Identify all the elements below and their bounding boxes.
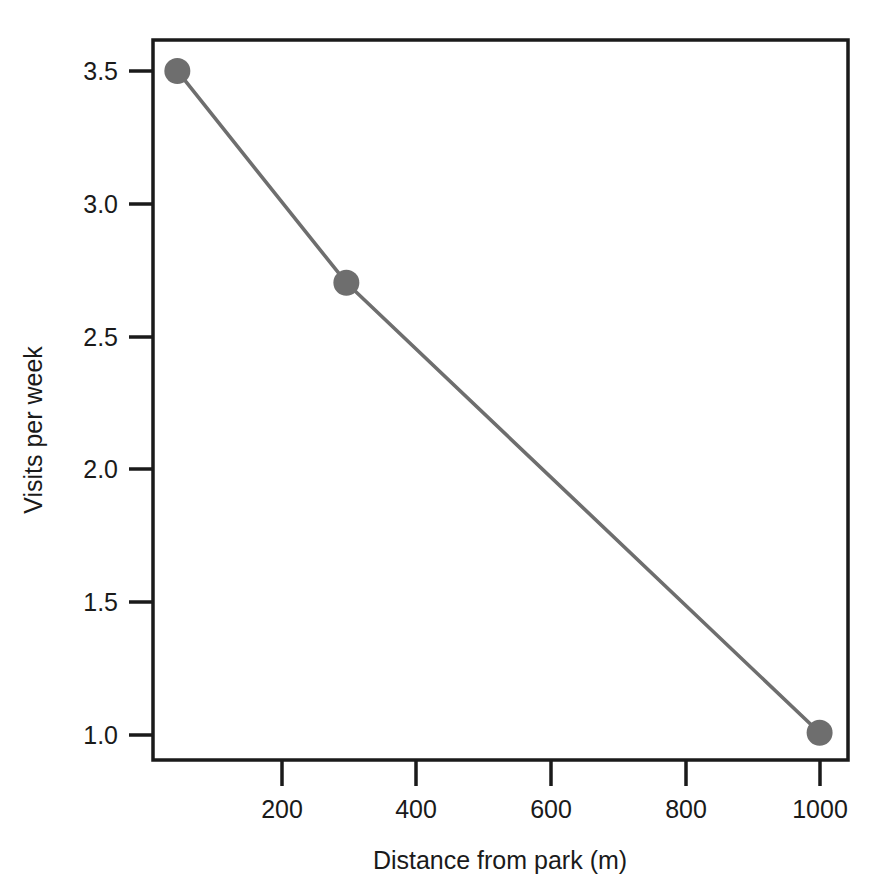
x-tick-label: 200 <box>261 795 303 823</box>
x-tick-label: 600 <box>530 795 572 823</box>
chart-figure: 1.0 1.5 2.0 2.5 3.0 3.5 200 400 600 800 … <box>0 0 892 895</box>
x-tick-label: 800 <box>665 795 707 823</box>
line-chart: 1.0 1.5 2.0 2.5 3.0 3.5 200 400 600 800 … <box>0 0 892 895</box>
y-tick-label: 3.0 <box>83 190 118 218</box>
x-tick-label: 400 <box>395 795 437 823</box>
y-tick-label: 2.5 <box>83 323 118 351</box>
y-tick-label: 1.0 <box>83 721 118 749</box>
y-axis-title: Visits per week <box>19 346 47 514</box>
y-tick-label: 1.5 <box>83 588 118 616</box>
y-tick-label: 3.5 <box>83 57 118 85</box>
data-point-marker <box>807 720 833 746</box>
data-point-marker <box>164 58 190 84</box>
data-point-marker <box>333 270 359 296</box>
x-tick-label: 1000 <box>792 795 848 823</box>
y-tick-label: 2.0 <box>83 455 118 483</box>
x-axis-title: Distance from park (m) <box>373 846 627 874</box>
